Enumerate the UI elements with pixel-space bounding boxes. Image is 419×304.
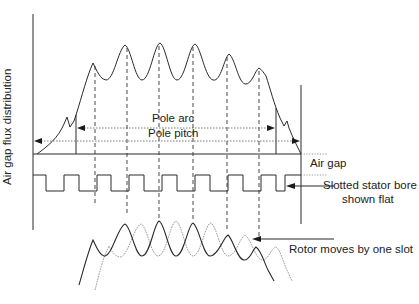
pole-arc-label: Pole arc xyxy=(152,113,194,125)
pole-pitch-label: Pole pitch xyxy=(148,128,199,140)
pole-pitch-arrowhead-left xyxy=(34,138,42,144)
stator-label-line2: shown flat xyxy=(342,194,394,206)
stator-slot-profile xyxy=(33,175,301,191)
original-flux-curve xyxy=(79,221,274,285)
pole-arc-arrowhead-right xyxy=(267,125,275,131)
y-axis-label: Air gap flux distribution xyxy=(2,69,14,185)
air-gap-label: Air gap xyxy=(310,158,346,170)
rotor-label: Rotor moves by one slot xyxy=(289,244,413,256)
rotor-pointer-arrowhead xyxy=(252,236,261,242)
tooth-center-lines xyxy=(95,46,259,240)
shifted-flux-curve xyxy=(95,221,292,290)
stator-label-line1: Slotted stator bore xyxy=(323,180,417,192)
pole-arc-arrowhead-left xyxy=(77,125,85,131)
stator-pointer-arrowhead xyxy=(286,183,295,189)
flux-diagram xyxy=(0,0,419,304)
